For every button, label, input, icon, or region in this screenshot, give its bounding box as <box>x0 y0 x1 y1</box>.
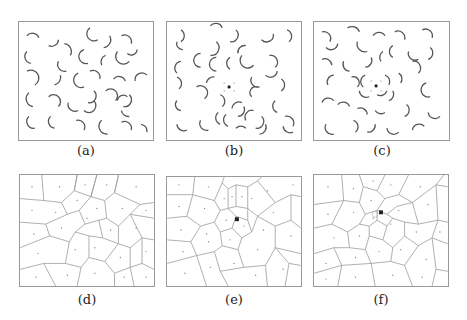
arc-pattern-a <box>19 22 153 140</box>
caption-b: (b) <box>214 143 254 158</box>
voronoi-sites-d <box>20 175 154 286</box>
panel-a-arcs <box>18 21 154 141</box>
panel-e-voronoi <box>166 176 302 287</box>
center-marker-c <box>314 22 449 140</box>
panel-f-voronoi <box>313 174 449 287</box>
panel-c-arcs <box>313 21 450 141</box>
caption-d: (d) <box>67 292 107 307</box>
center-marker-f <box>379 210 383 214</box>
caption-e: (e) <box>214 292 254 307</box>
voronoi-sites-e <box>167 177 301 286</box>
center-marker-e <box>235 217 239 221</box>
caption-c: (c) <box>362 143 402 158</box>
panel-d-voronoi <box>19 174 155 287</box>
panel-b-arcs <box>166 21 302 141</box>
caption-a: (a) <box>66 143 106 158</box>
voronoi-sites-f <box>314 175 448 286</box>
caption-f: (f) <box>361 292 401 307</box>
center-marker-b <box>167 22 301 140</box>
